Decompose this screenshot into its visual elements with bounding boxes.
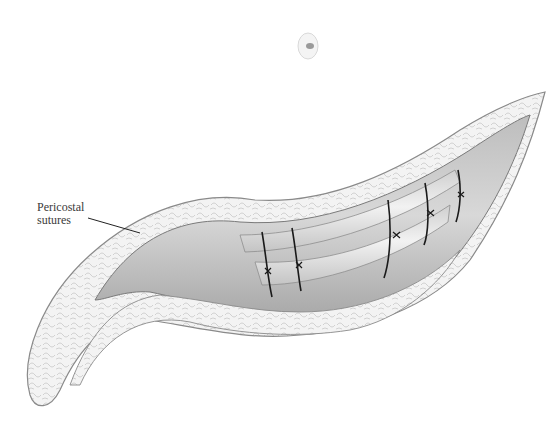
- callout-line-2: sutures: [37, 214, 84, 227]
- callout-label-pericostal-sutures: Pericostal sutures: [37, 201, 84, 227]
- areola-mark: [298, 33, 318, 59]
- surgical-illustration: Pericostal sutures: [0, 0, 548, 448]
